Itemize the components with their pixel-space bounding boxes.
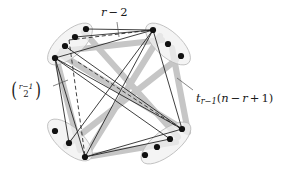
label-binomial-coefficient: ( r−1 2 ): [10, 82, 42, 100]
cluster-south-west-hub-vertex: [82, 154, 88, 160]
cluster-north-west-hub-vertex: [52, 55, 58, 61]
t-arg-plus: +: [250, 91, 260, 105]
t-subscript: r−1: [201, 96, 217, 106]
t-arg-one: 1: [261, 91, 268, 105]
cluster-south-east-vertex-1: [167, 136, 173, 142]
binomial-fraction: r−1 2: [18, 83, 34, 99]
t-arg-n: n: [221, 91, 228, 105]
cluster-south-east-vertex-2: [154, 144, 160, 150]
label-r-minus-2-num: 2: [120, 5, 127, 19]
band-ne-to-sw: [88, 36, 160, 152]
edge-nwdot3-to-sehub: [65, 46, 182, 129]
binomial-group: ( r−1 2 ): [10, 82, 42, 100]
cluster-north-west-vertex-2: [72, 34, 78, 40]
label-r-minus-2-op: −: [109, 5, 119, 19]
binomial-denominator: 2: [23, 90, 28, 99]
t-paren-close: ): [269, 91, 274, 105]
figure-root: r−2 ( r−1 2 ) tr−1(n−r+1): [0, 0, 282, 179]
graph-diagram-canvas: [0, 0, 282, 179]
paren-close-icon: ): [35, 82, 41, 100]
paren-open-icon: (: [11, 82, 17, 100]
label-r-minus-2: r−2: [101, 7, 127, 19]
cluster-north-west-vertex-3: [62, 43, 68, 49]
cluster-north-east-hub-vertex: [150, 27, 156, 33]
label-turan-number: tr−1(n−r+1): [196, 93, 273, 106]
cluster-south-east-vertex-3: [142, 152, 148, 158]
cluster-south-west-vertex-1: [52, 128, 58, 134]
binomial-numerator-num: 1: [29, 82, 34, 91]
cluster-north-east-vertex-2: [178, 53, 184, 59]
label-r-minus-2-var: r: [101, 5, 107, 19]
edge-nwdot1-to-nehub: [86, 29, 153, 30]
cluster-south-east-hub-vertex: [179, 126, 185, 132]
t-arg-r: r: [242, 91, 248, 105]
t-arg-minus: −: [231, 91, 241, 105]
cluster-north-west-vertex-1: [83, 26, 89, 32]
cluster-south-west-vertex-2: [66, 140, 72, 146]
cluster-north-east-vertex-1: [165, 41, 171, 47]
